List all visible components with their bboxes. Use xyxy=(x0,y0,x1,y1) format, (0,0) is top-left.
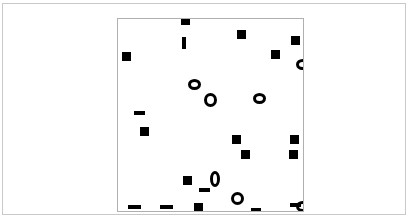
scatter-marker-open-ring xyxy=(231,192,244,205)
scatter-marker-horizontal-dash xyxy=(160,205,173,209)
scatter-marker-filled-square xyxy=(181,18,190,25)
scatter-marker-filled-square xyxy=(271,50,280,59)
scatter-marker-filled-square xyxy=(237,30,246,39)
scatter-plot-axes[interactable] xyxy=(117,18,304,212)
scatter-marker-open-ring xyxy=(210,171,220,187)
scatter-marker-open-ring xyxy=(253,93,266,104)
scatter-marker-filled-square xyxy=(183,176,192,185)
scatter-marker-clipped-edge-marker xyxy=(296,201,304,212)
scatter-marker-horizontal-dash xyxy=(134,111,145,115)
figure-outer-frame xyxy=(2,3,406,215)
scatter-marker-filled-square xyxy=(122,52,131,61)
scatter-marker-open-ring xyxy=(296,59,304,70)
scatter-marker-horizontal-dash xyxy=(128,205,141,209)
scatter-marker-filled-square xyxy=(241,150,250,159)
scatter-marker-filled-square xyxy=(289,150,298,159)
scatter-marker-horizontal-dash xyxy=(199,188,210,192)
scatter-marker-vertical-dash xyxy=(182,37,186,49)
scatter-marker-filled-square xyxy=(194,203,203,212)
scatter-marker-open-ring xyxy=(188,79,201,90)
scatter-marker-open-ring xyxy=(204,93,217,107)
scatter-marker-filled-square xyxy=(232,135,241,144)
figure-root xyxy=(0,0,408,222)
scatter-marker-filled-square xyxy=(291,36,300,45)
scatter-marker-horizontal-dash xyxy=(251,208,261,212)
scatter-marker-filled-square xyxy=(140,127,149,136)
scatter-marker-filled-square xyxy=(290,135,299,144)
